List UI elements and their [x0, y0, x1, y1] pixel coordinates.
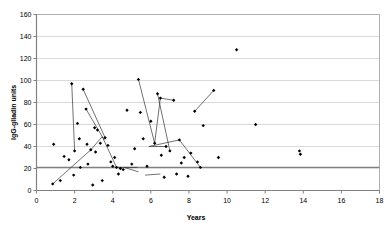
- data-point: [168, 149, 171, 152]
- data-point: [164, 145, 167, 148]
- data-point: [217, 156, 220, 159]
- x-tick-label: 16: [337, 197, 345, 204]
- y-tick-label: 140: [20, 33, 32, 40]
- data-point: [130, 162, 133, 165]
- x-tick-label: 0: [35, 197, 39, 204]
- data-point: [162, 176, 165, 179]
- x-axis-title: Years: [0, 214, 392, 221]
- scatter-chart: 020406080100120140160024681012141618 IgG…: [0, 0, 392, 231]
- data-point: [298, 149, 301, 152]
- connector-line: [160, 98, 173, 100]
- x-tick-label: 8: [187, 197, 191, 204]
- x-tick-label: 4: [111, 197, 115, 204]
- data-point: [186, 175, 189, 178]
- data-point: [52, 143, 55, 146]
- data-point: [142, 137, 145, 140]
- x-tick-label: 2: [73, 197, 77, 204]
- y-tick-label: 20: [24, 165, 32, 172]
- chart-plot-area: 020406080100120140160024681012141618: [0, 0, 392, 231]
- data-point: [196, 160, 199, 163]
- x-tick-label: 6: [149, 197, 153, 204]
- data-point: [153, 142, 156, 145]
- data-point: [299, 153, 302, 156]
- data-point: [189, 151, 192, 154]
- data-point: [182, 156, 185, 159]
- y-tick-label: 60: [24, 121, 32, 128]
- data-point: [160, 154, 163, 157]
- connector-line: [83, 89, 105, 137]
- y-tick-label: 160: [20, 11, 32, 18]
- data-point: [84, 107, 87, 110]
- data-point: [73, 149, 76, 152]
- data-point: [70, 82, 73, 85]
- data-point: [72, 173, 75, 176]
- y-tick-label: 120: [20, 55, 32, 62]
- connector-line: [195, 90, 214, 111]
- x-tick-label: 18: [376, 197, 384, 204]
- data-point: [62, 155, 65, 158]
- data-point: [99, 142, 102, 145]
- data-point: [93, 126, 96, 129]
- data-point: [117, 172, 120, 175]
- data-point: [172, 99, 175, 102]
- data-point: [156, 92, 159, 95]
- y-tick-label: 80: [24, 99, 32, 106]
- data-point: [109, 160, 112, 163]
- y-tick-label: 40: [24, 143, 32, 150]
- data-point: [78, 137, 81, 140]
- data-point: [91, 183, 94, 186]
- data-point: [101, 179, 104, 182]
- y-tick-label: 0: [28, 187, 32, 194]
- data-point: [86, 162, 89, 165]
- y-tick-label: 100: [20, 77, 32, 84]
- data-point: [59, 179, 62, 182]
- connector-line: [72, 84, 75, 151]
- data-point: [159, 96, 162, 99]
- x-tick-label: 12: [261, 197, 269, 204]
- data-point: [139, 111, 142, 114]
- data-point: [175, 172, 178, 175]
- data-point: [180, 161, 183, 164]
- data-point: [133, 147, 136, 150]
- x-tick-label: 14: [299, 197, 307, 204]
- data-point: [81, 88, 84, 91]
- data-point: [85, 143, 88, 146]
- data-point: [113, 156, 116, 159]
- data-point: [254, 123, 257, 126]
- data-point: [125, 109, 128, 112]
- connector-line: [102, 137, 116, 168]
- x-tick-label: 10: [223, 197, 231, 204]
- y-axis-title: IgG-gliadin units: [10, 85, 17, 140]
- data-point: [94, 150, 97, 153]
- data-point: [235, 48, 238, 51]
- connector-line: [145, 174, 160, 175]
- data-point: [67, 158, 70, 161]
- connector-line: [155, 98, 161, 143]
